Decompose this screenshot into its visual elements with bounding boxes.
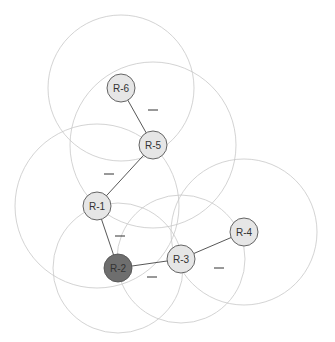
node-r-3[interactable]: R-3 bbox=[167, 245, 195, 273]
node-label: R-4 bbox=[236, 227, 253, 238]
link-labels bbox=[104, 110, 224, 277]
network-diagram: R-1R-2R-3R-4R-5R-6 bbox=[0, 0, 335, 342]
node-r-1[interactable]: R-1 bbox=[83, 192, 111, 220]
node-r-5[interactable]: R-5 bbox=[139, 131, 167, 159]
node-label: R-1 bbox=[89, 201, 106, 212]
node-label: R-5 bbox=[145, 140, 162, 151]
node-label: R-3 bbox=[173, 254, 190, 265]
nodes: R-1R-2R-3R-4R-5R-6 bbox=[83, 74, 258, 282]
node-r-6[interactable]: R-6 bbox=[107, 74, 135, 102]
node-r-2[interactable]: R-2 bbox=[104, 254, 132, 282]
node-r-4[interactable]: R-4 bbox=[230, 218, 258, 246]
node-label: R-6 bbox=[113, 83, 130, 94]
node-label: R-2 bbox=[110, 263, 127, 274]
links bbox=[97, 88, 244, 268]
range-circles bbox=[15, 15, 317, 333]
